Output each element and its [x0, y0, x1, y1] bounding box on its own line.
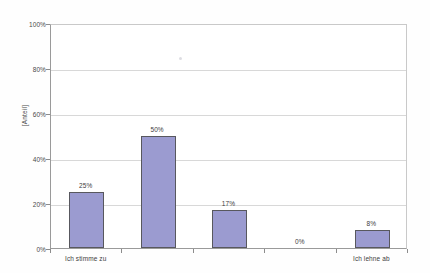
bar-value-label: 50%	[150, 126, 163, 133]
bar-value-label: 0%	[295, 238, 305, 245]
plot-area	[50, 24, 407, 249]
x-tick-mark	[336, 249, 337, 253]
scan-artifact-speck	[179, 57, 182, 60]
x-tick-mark	[407, 249, 408, 253]
bar	[69, 192, 104, 248]
chart-title: Ich halte die Maßnahme für sinnvoll	[44, 0, 152, 1]
chart-page: Ich halte die Maßnahme für sinnvoll [Ant…	[0, 0, 430, 273]
x-tick-mark	[121, 249, 122, 253]
x-tick-mark	[264, 249, 265, 253]
y-tick-label: 60%	[6, 111, 46, 118]
x-tick-mark	[50, 249, 51, 253]
x-tick-mark	[193, 249, 194, 253]
y-tick-label: 20%	[6, 201, 46, 208]
bar	[212, 210, 247, 248]
x-category-label: Ich stimme zu	[65, 255, 106, 262]
y-tick-label: 0%	[6, 246, 46, 253]
bar-value-label: 25%	[79, 182, 92, 189]
y-tick-label: 100%	[6, 21, 46, 28]
bar	[141, 136, 176, 249]
bar-value-label: 8%	[366, 220, 376, 227]
y-tick-label: 40%	[6, 156, 46, 163]
gridline	[51, 160, 406, 161]
bar	[355, 230, 390, 248]
gridline	[51, 70, 406, 71]
gridline	[51, 115, 406, 116]
y-tick-label: 80%	[6, 66, 46, 73]
bar-value-label: 17%	[222, 200, 235, 207]
x-category-label: Ich lehne ab	[353, 255, 390, 262]
